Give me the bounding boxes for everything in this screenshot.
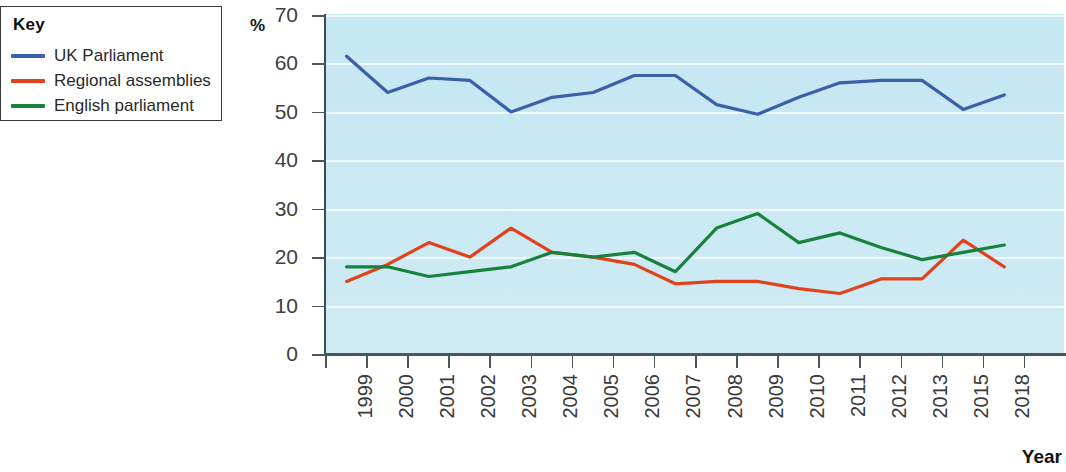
x-tick-label: 2007 [683,374,703,419]
legend-title: Key [13,15,211,35]
x-tick-label: 2008 [725,374,745,419]
x-tick-mark [942,355,944,368]
x-tick-mark [654,355,656,368]
y-tick-label: 70 [252,4,298,25]
legend-item: English parliament [11,93,211,118]
x-tick-mark [448,355,450,368]
legend-box: Key UK ParliamentRegional assembliesEngl… [0,6,222,121]
x-tick-label: 2002 [478,374,498,419]
legend-item-label: Regional assemblies [54,72,211,89]
series-line [347,214,1005,277]
x-tick-mark [983,355,985,368]
x-tick-mark [736,355,738,368]
y-tick-label: 50 [252,101,298,122]
x-tick-mark [572,355,574,368]
x-tick-label: 2001 [437,374,457,419]
y-tick-label: 0 [252,343,298,364]
x-tick-mark [777,355,779,368]
x-tick-mark [859,355,861,368]
x-tick-mark [695,355,697,368]
plot-area: 010203040506070 199920002001200220032004… [302,14,1064,355]
x-tick-mark [366,355,368,368]
legend-item: UK Parliament [11,43,211,68]
x-tick-label: 2010 [807,374,827,419]
series-line [347,228,1005,293]
x-tick-mark [613,355,615,368]
legend-item-label: UK Parliament [54,47,164,64]
x-tick-label: 2011 [848,374,868,417]
series-lines [324,14,1064,355]
x-tick-label: 2000 [396,374,416,419]
legend-items: UK ParliamentRegional assembliesEnglish … [11,43,211,118]
x-tick-label: 2013 [930,374,950,419]
x-tick-mark [407,355,409,368]
x-axis-title: Year [1022,446,1062,468]
x-tick-mark [1024,355,1026,368]
legend-item-label: English parliament [54,97,194,114]
y-tick-label: 30 [252,198,298,219]
legend-color-swatch [11,104,45,108]
series-line [347,56,1005,114]
legend-color-swatch [11,79,45,83]
y-tick-label: 60 [252,52,298,73]
x-tick-mark [818,355,820,368]
x-tick-label: 2003 [519,374,539,419]
x-tick-label: 2012 [889,374,909,419]
x-tick-mark [489,355,491,368]
x-tick-mark [901,355,903,368]
y-tick-label: 40 [252,149,298,170]
x-tick-label: 2005 [601,374,621,419]
y-tick-label: 20 [252,246,298,267]
x-tick-label: 2006 [642,374,662,419]
y-tick-label: 10 [252,295,298,316]
legend-color-swatch [11,54,45,58]
x-tick-label: 2015 [971,374,991,419]
x-tick-mark [325,355,327,368]
legend-item: Regional assemblies [11,68,211,93]
x-tick-mark [531,355,533,368]
x-tick-label: 2009 [766,374,786,419]
x-tick-label: 2004 [560,374,580,419]
x-tick-label: 1999 [355,374,375,419]
x-tick-label: 2018 [1012,374,1032,419]
